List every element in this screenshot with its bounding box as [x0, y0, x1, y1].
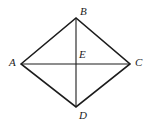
vertex-label-a: A — [9, 57, 16, 68]
quadrilateral-diagram — [0, 0, 150, 127]
geometry-figure: A B C D E — [0, 0, 150, 127]
vertex-label-e: E — [79, 49, 86, 60]
vertex-label-b: B — [80, 6, 87, 17]
vertex-label-c: C — [135, 57, 142, 68]
vertex-label-d: D — [79, 110, 87, 121]
